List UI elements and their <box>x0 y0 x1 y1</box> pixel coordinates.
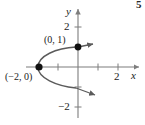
point-label-0-1: (0, 1) <box>44 35 66 45</box>
parabola-lower-branch <box>38 67 76 88</box>
point-label-neg2-0: (−2, 0) <box>5 72 32 82</box>
y-axis-label: y <box>66 6 71 17</box>
x-axis-label: x <box>131 70 136 81</box>
parabola-upper-branch <box>38 47 76 67</box>
x-tick-label-2: 2 <box>114 71 120 82</box>
cartesian-plot-svg <box>0 0 145 125</box>
point-marker-neg2-0 <box>35 63 42 70</box>
parabola-lower-arrow <box>76 88 95 95</box>
y-tick-label-2: 2 <box>64 21 70 32</box>
y-tick-label-neg2: −2 <box>58 101 70 112</box>
problem-number: 5 <box>136 0 144 9</box>
graph-figure: y x 2 −2 2 (0, 1) (−2, 0) 5 <box>0 0 145 125</box>
point-marker-0-1 <box>75 44 82 51</box>
